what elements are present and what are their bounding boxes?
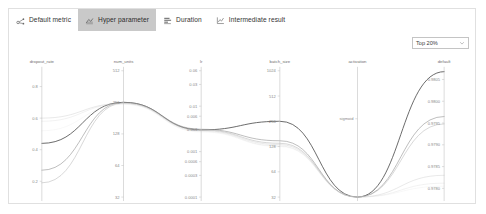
axis-tick-label: sigmoid	[340, 116, 354, 121]
chevron-down-icon	[459, 40, 465, 46]
axis-tick-label: 0.9795	[428, 121, 441, 126]
axis-tick-label: 64	[115, 163, 120, 168]
top-percent-filter-select[interactable]: Top 20%	[412, 37, 469, 49]
axis-tick-label: 0.0001	[185, 195, 198, 200]
axis-tick-label: 512	[269, 94, 277, 99]
tab-hyper-parameter-label: Hyper parameter	[98, 17, 149, 24]
top-percent-filter-value: Top 20%	[416, 40, 438, 46]
axis-tick-label: 0.0006	[185, 159, 198, 164]
series-layer	[42, 72, 444, 197]
series-line[interactable]	[42, 103, 444, 197]
axis-tick-label: 32	[271, 195, 276, 200]
axis-tick-label: 0.003	[187, 127, 198, 132]
axis-tick-label: 0.4	[32, 147, 38, 152]
axis-dropout_rate: dropout_rate0.80.60.40.2	[30, 59, 55, 201]
axis-tick-label: 0.9805	[428, 77, 441, 82]
axis-tick-label: 0.9790	[428, 142, 441, 147]
tab-intermediate-result-label: Intermediate result	[229, 17, 286, 24]
axis-tick-label: 0.03	[189, 82, 198, 87]
axis-tick-label: 0.8	[32, 84, 38, 89]
tab-default-metric-label: Default metric	[29, 17, 71, 24]
axis-title: num_units	[114, 59, 134, 64]
axis-tick-label: 0.006	[187, 114, 198, 119]
tab-duration[interactable]: Duration	[156, 9, 209, 31]
axis-tick-label: 0.9800	[428, 99, 441, 104]
hpo-panel: Default metric Hyper parameter Duration	[8, 8, 476, 204]
axis-tick-label: 512	[113, 68, 121, 73]
tab-duration-label: Duration	[176, 17, 202, 24]
series-line[interactable]	[42, 104, 444, 197]
axis-title: lr	[200, 59, 203, 64]
parallel-coordinates-chart: dropout_rate0.80.60.40.2num_units5122561…	[9, 53, 475, 203]
parallel-coordinates-icon	[85, 16, 94, 25]
axis-tick-label: 0.06	[189, 68, 198, 73]
axis-tick-label: 0.9780	[428, 186, 441, 191]
axis-tick-label: 32	[115, 195, 120, 200]
axis-tick-label: 256	[269, 119, 277, 124]
series-line[interactable]	[42, 104, 444, 197]
tab-hyper-parameter[interactable]: Hyper parameter	[78, 9, 156, 31]
series-line[interactable]	[42, 102, 444, 197]
tab-intermediate-result[interactable]: Intermediate result	[209, 9, 293, 31]
axis-title: batch_size	[270, 59, 291, 64]
axis-tick-label: 0.001	[187, 149, 198, 154]
parallel-coordinates-svg: dropout_rate0.80.60.40.2num_units5122561…	[9, 53, 475, 203]
axis-title: default	[438, 59, 452, 64]
axis-tick-label: 1024	[267, 68, 277, 73]
axis-title: activation	[348, 59, 367, 64]
axis-tick-label: 0.0003	[185, 173, 198, 178]
axis-tick-label: 0.2	[32, 179, 38, 184]
axis-tick-label: 64	[271, 169, 276, 174]
axis-activation: activationsigmoid	[340, 59, 368, 201]
tab-default-metric[interactable]: Default metric	[9, 9, 78, 31]
axis-tick-label: 0.9785	[428, 164, 441, 169]
axis-lr: lr0.060.030.010.0060.0030.0010.00060.000…	[185, 59, 203, 201]
axis-title: dropout_rate	[30, 59, 55, 64]
scatter-metric-icon	[16, 16, 25, 25]
line-intermediate-icon	[216, 16, 225, 25]
axis-num_units: num_units5122561286432	[113, 59, 134, 201]
series-line[interactable]	[42, 72, 444, 197]
axis-tick-label: 128	[113, 131, 121, 136]
axis-tick-label: 256	[113, 100, 121, 105]
axis-batch_size: batch_size10245122561286432	[267, 59, 291, 201]
axis-tick-label: 128	[269, 144, 277, 149]
axis-default: default0.98050.98000.97950.97900.97850.9…	[428, 59, 452, 201]
view-tab-bar: Default metric Hyper parameter Duration	[9, 9, 475, 31]
axis-tick-label: 0.01	[189, 104, 198, 109]
bar-duration-icon	[163, 16, 172, 25]
series-line[interactable]	[42, 103, 444, 197]
axis-tick-label: 0.6	[32, 116, 38, 121]
